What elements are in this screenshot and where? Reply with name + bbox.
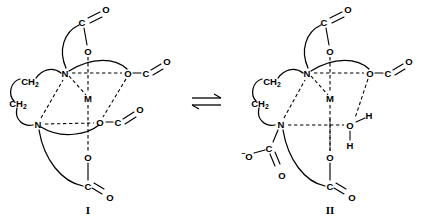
atom-N-lower-II: N	[278, 119, 285, 130]
atom-O-carbonyl-right-I: O	[163, 56, 170, 67]
atom-C-right-I: C	[143, 68, 150, 79]
bond-Ctop-carbonylO-a-II	[330, 12, 342, 18]
atom-O-right-I: O	[124, 68, 131, 79]
coord-bond-Nlower-Nupper	[41, 80, 63, 118]
atom-O-carbonyl-top-II: O	[344, 4, 351, 15]
bond-Nlower-Cfree-II	[273, 130, 278, 142]
bond-Nlower-arc-right	[41, 125, 99, 135]
bond-Nupper-arc-right-II	[311, 60, 369, 71]
bond-CH2lower-Nlower-II	[258, 108, 275, 125]
atom-O-carbonyl-mid-I: O	[136, 104, 143, 115]
structure-label-II: II	[326, 204, 335, 216]
bond-Cright-carbonylO-b-II	[395, 69, 405, 75]
atom-O-top-I: O	[84, 46, 91, 57]
bond-Cright-carbonylO-b	[153, 69, 163, 75]
bond-Cbottom-carbonylO-a-II	[336, 183, 346, 189]
coord-bond-Nlower-Nupper-II	[284, 80, 305, 118]
bond-Nlower-Cbottom	[39, 130, 83, 186]
structure-diagram: N N M O C O O C O O C O O C O CH2 CH2 I	[0, 0, 422, 223]
bond-Cmid-carbonylO-a	[123, 112, 134, 119]
group-CH2-lower-I: CH2	[9, 98, 27, 110]
bond-Cfree-carbonylO-a-II	[270, 154, 275, 166]
coord-bond-Nlower-Omid	[45, 123, 94, 124]
bond-Ctop-Otop-II	[326, 28, 329, 45]
bond-Nupper-arc-right	[69, 60, 127, 71]
bond-Ctop-carbonylO-b-II	[332, 17, 344, 23]
bond-Cright-carbonylO-a	[151, 64, 161, 70]
atom-C-top-I: C	[79, 17, 86, 28]
atom-O-carbonyl-right-II: O	[405, 56, 412, 67]
atom-H-water-1-II: H	[366, 110, 373, 121]
group-CH2-lower-II: CH2	[251, 98, 269, 110]
atom-H-water-2-II: H	[347, 140, 354, 151]
atom-N-upper-II: N	[304, 68, 311, 79]
bond-Owater-H1-II	[356, 118, 365, 122]
atom-O-bottom-I: O	[84, 152, 91, 163]
structure-II: N N M O C O O C O O C O O H H −O C O CH2…	[241, 4, 412, 217]
atom-C-top-II: C	[321, 17, 328, 28]
atom-O-right-II: O	[366, 68, 373, 79]
atom-O-carbonyl-free-II: O	[278, 170, 285, 181]
equilibrium-arrows	[192, 94, 221, 109]
bond-Cbottom-carbonylO-b-II	[334, 188, 344, 194]
bond-Cbottom-carbonylO-a	[94, 183, 104, 189]
atom-M-II: M	[326, 93, 334, 104]
atom-O-carbonyl-top-I: O	[102, 4, 109, 15]
bond-Cright-carbonylO-a-II	[393, 64, 403, 70]
bond-Cfree-Ominus-II	[254, 150, 265, 153]
coordination-bonds-I	[41, 57, 126, 151]
bond-Cfree-carbonylO-b-II	[275, 152, 280, 164]
atom-C-bottom-II: C	[327, 181, 334, 192]
bond-Nupper-CH2upper	[36, 69, 61, 78]
atom-O-free-minus-II: −O	[241, 149, 252, 161]
atom-C-free-II: C	[266, 143, 273, 154]
atom-O-top-II: O	[326, 46, 333, 57]
atom-C-mid-I: C	[115, 117, 122, 128]
bond-Ctop-carbonylO-a	[88, 12, 100, 18]
bond-Ctop-carbonylO-b	[90, 17, 102, 23]
bond-Nupper-Ctop-II	[304, 25, 321, 68]
atom-O-carbonyl-bottom-II: O	[348, 192, 355, 203]
bond-Cbottom-carbonylO-b	[92, 188, 102, 194]
coordination-bonds-II	[284, 57, 368, 151]
atom-O-water-II: O	[346, 120, 353, 131]
bond-Nupper-Ctop	[62, 25, 79, 68]
atom-O-carbonyl-bottom-I: O	[106, 192, 113, 203]
atom-M-I: M	[84, 93, 92, 104]
bond-Ctop-Otop	[84, 28, 87, 45]
bond-Cmid-carbonylO-b	[125, 117, 136, 124]
atom-N-lower-I: N	[35, 119, 42, 130]
atom-C-right-II: C	[385, 68, 392, 79]
atom-O-bottom-II: O	[326, 152, 333, 163]
coord-bond-Oright-Omid	[103, 79, 126, 117]
atom-O-mid-I: O	[96, 117, 103, 128]
figure-canvas: N N M O C O O C O O C O O C O CH2 CH2 I	[0, 0, 422, 223]
atom-C-bottom-I: C	[85, 181, 92, 192]
atom-N-upper-I: N	[62, 68, 69, 79]
bond-Nupper-CH2upper-II	[278, 69, 303, 78]
bond-CH2lower-Nlower	[16, 108, 33, 125]
structure-I: N N M O C O O C O O C O O C O CH2 CH2 I	[9, 4, 170, 217]
bond-Nlower-Cbottom-II	[283, 130, 325, 186]
structure-label-I: I	[86, 204, 90, 216]
